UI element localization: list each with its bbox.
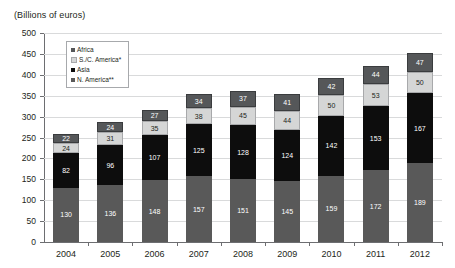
bar-segment[interactable]: 142 bbox=[318, 116, 344, 175]
bar-stack[interactable]: 1571253834 bbox=[186, 94, 212, 242]
bar-value-label: 27 bbox=[151, 112, 159, 119]
legend-item-label: Asia bbox=[77, 66, 90, 73]
x-axis-tick-mark bbox=[132, 242, 133, 246]
bar-value-label: 34 bbox=[195, 98, 203, 105]
y-axis-tick-label: 350 bbox=[2, 92, 36, 100]
y-axis-tick-label: 300 bbox=[2, 113, 36, 121]
bar-segment[interactable]: 124 bbox=[274, 130, 300, 182]
bar-value-label: 145 bbox=[281, 208, 293, 215]
bar-segment[interactable]: 157 bbox=[186, 176, 212, 242]
bar-segment[interactable]: 38 bbox=[186, 108, 212, 124]
x-axis-tick-label: 2012 bbox=[397, 249, 443, 259]
x-axis-tick-mark bbox=[221, 242, 222, 246]
bar-segment[interactable]: 172 bbox=[363, 170, 389, 242]
y-axis-tick-mark bbox=[40, 242, 44, 243]
bar-value-label: 24 bbox=[62, 145, 70, 152]
legend-item[interactable]: S./C. America* bbox=[71, 55, 125, 64]
bar-stack[interactable]: 1511284537 bbox=[230, 91, 256, 242]
bar-value-label: 45 bbox=[239, 112, 247, 119]
bar-segment[interactable]: 22 bbox=[53, 134, 79, 143]
bar-value-label: 47 bbox=[416, 59, 424, 66]
bar-segment[interactable]: 130 bbox=[53, 188, 79, 242]
legend-item[interactable]: Africa bbox=[71, 45, 125, 54]
x-axis-tick-mark bbox=[442, 242, 443, 246]
bar-value-label: 44 bbox=[372, 71, 380, 78]
bar-value-label: 38 bbox=[195, 113, 203, 120]
bar-segment[interactable]: 167 bbox=[407, 93, 433, 163]
bar-segment[interactable]: 159 bbox=[318, 176, 344, 242]
bar-value-label: 35 bbox=[151, 125, 159, 132]
y-axis-tick-label: 200 bbox=[2, 154, 36, 162]
bar-stack[interactable]: 1591425042 bbox=[318, 78, 344, 242]
bar-segment[interactable]: 153 bbox=[363, 106, 389, 170]
bar-stack[interactable]: 1481073527 bbox=[142, 110, 168, 242]
bar-value-label: 42 bbox=[328, 83, 336, 90]
bar-segment[interactable]: 24 bbox=[97, 122, 123, 132]
bar-stack[interactable]: 1721535344 bbox=[363, 66, 389, 242]
bar-segment[interactable]: 50 bbox=[407, 72, 433, 93]
x-axis-tick-mark bbox=[398, 242, 399, 246]
x-axis-tick-mark bbox=[265, 242, 266, 246]
bar-value-label: 142 bbox=[326, 142, 338, 149]
bar-segment[interactable]: 47 bbox=[407, 53, 433, 73]
legend-item[interactable]: Asia bbox=[71, 65, 125, 74]
bar-segment[interactable]: 24 bbox=[53, 143, 79, 153]
bar-value-label: 167 bbox=[414, 125, 426, 132]
bar-value-label: 130 bbox=[60, 211, 72, 218]
bar-segment[interactable]: 145 bbox=[274, 181, 300, 242]
bar-segment[interactable]: 128 bbox=[230, 125, 256, 179]
bar-value-label: 125 bbox=[193, 147, 205, 154]
bar-value-label: 128 bbox=[237, 149, 249, 156]
bar-stack[interactable]: 1451244441 bbox=[274, 94, 300, 242]
bar-value-label: 31 bbox=[106, 135, 114, 142]
x-axis-tick-label: 2010 bbox=[308, 249, 354, 259]
bar-value-label: 148 bbox=[149, 208, 161, 215]
bar-segment[interactable]: 151 bbox=[230, 179, 256, 242]
bar-value-label: 151 bbox=[237, 207, 249, 214]
bar-value-label: 53 bbox=[372, 92, 380, 99]
bar-segment[interactable]: 148 bbox=[142, 180, 168, 242]
bar-value-label: 24 bbox=[106, 124, 114, 131]
chart-legend: AfricaS./C. America*AsiaN. America** bbox=[66, 41, 129, 88]
bar-stack[interactable]: 1891675047 bbox=[407, 53, 433, 242]
bar-value-label: 153 bbox=[370, 135, 382, 142]
x-axis-line bbox=[44, 242, 443, 243]
y-axis-tick-label: 50 bbox=[2, 217, 36, 225]
bar-segment[interactable]: 125 bbox=[186, 124, 212, 176]
bar-segment[interactable]: 44 bbox=[363, 66, 389, 84]
bar-segment[interactable]: 27 bbox=[142, 110, 168, 121]
x-axis-tick-label: 2009 bbox=[264, 249, 310, 259]
bar-stack[interactable]: 130822422 bbox=[53, 134, 79, 242]
bar-segment[interactable]: 34 bbox=[186, 94, 212, 108]
bar-segment[interactable]: 136 bbox=[97, 185, 123, 242]
bar-segment[interactable]: 45 bbox=[230, 107, 256, 126]
bar-segment[interactable]: 44 bbox=[274, 111, 300, 129]
bar-segment[interactable]: 96 bbox=[97, 145, 123, 185]
bar-segment[interactable]: 42 bbox=[318, 78, 344, 96]
bar-segment[interactable]: 37 bbox=[230, 91, 256, 106]
x-axis-tick-mark bbox=[354, 242, 355, 246]
bar-stack[interactable]: 136963124 bbox=[97, 122, 123, 242]
chart-axis-title: (Billions of euros) bbox=[14, 10, 85, 20]
y-axis-tick-label: 0 bbox=[2, 238, 36, 246]
bar-segment[interactable]: 189 bbox=[407, 163, 433, 242]
legend-item[interactable]: N. America** bbox=[71, 75, 125, 84]
bar-value-label: 189 bbox=[414, 199, 426, 206]
x-axis-tick-mark bbox=[309, 242, 310, 246]
bar-segment[interactable]: 50 bbox=[318, 95, 344, 116]
bar-segment[interactable]: 35 bbox=[142, 121, 168, 136]
bar-segment[interactable]: 107 bbox=[142, 135, 168, 180]
x-axis-tick-label: 2011 bbox=[353, 249, 399, 259]
bar-value-label: 37 bbox=[239, 95, 247, 102]
legend-swatch-icon bbox=[71, 78, 75, 82]
bar-segment[interactable]: 41 bbox=[274, 94, 300, 111]
legend-item-label: S./C. America* bbox=[79, 56, 121, 63]
x-axis-tick-label: 2006 bbox=[132, 249, 178, 259]
bar-segment[interactable]: 31 bbox=[97, 132, 123, 145]
bar-value-label: 107 bbox=[149, 154, 161, 161]
bar-segment[interactable]: 82 bbox=[53, 153, 79, 187]
bar-segment[interactable]: 53 bbox=[363, 84, 389, 106]
x-axis-tick-label: 2005 bbox=[87, 249, 133, 259]
bar-value-label: 41 bbox=[283, 99, 291, 106]
bar-value-label: 136 bbox=[104, 210, 116, 217]
